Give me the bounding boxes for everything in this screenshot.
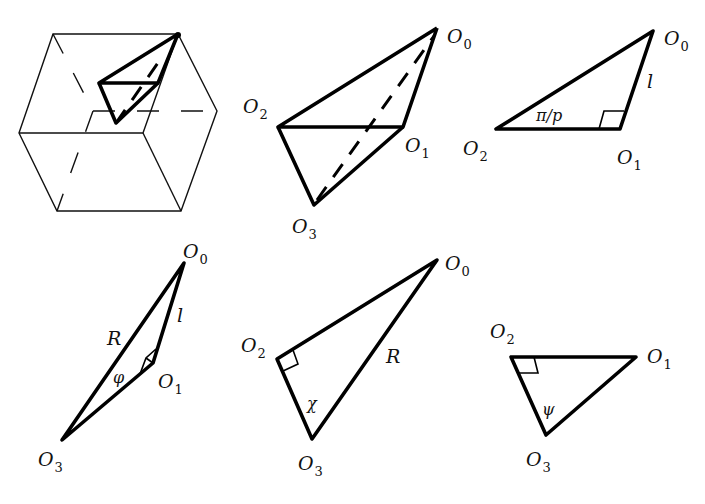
triangle-013-panel: R l φ O0 O1 O3 xyxy=(38,240,208,475)
vertex-label-O3: O3 xyxy=(298,452,323,479)
cube-hidden-edge-3 xyxy=(57,111,93,211)
vertex-label-O0: O0 xyxy=(445,252,470,279)
vertex-label-O1: O1 xyxy=(158,370,183,397)
edge-label-R: R xyxy=(385,345,400,367)
triangle-012 xyxy=(496,31,653,129)
triangle-023-panel: R χ O0 O2 O3 xyxy=(241,252,470,479)
orthoscheme-figure: O0 O2 O1 O3 π/p l O0 O2 O1 R l φ O0 O1 O… xyxy=(0,0,705,504)
cube-orthoscheme-solid xyxy=(99,34,178,83)
edge-label-R: R xyxy=(106,327,121,349)
orthoscheme-edges xyxy=(278,28,437,127)
cube-panel xyxy=(19,32,217,211)
cube-vertex-dot xyxy=(175,32,181,38)
angle-label-chi: χ xyxy=(306,394,318,413)
vertex-label-O1: O1 xyxy=(647,345,672,372)
triangle-023 xyxy=(277,260,437,439)
angle-label-pi-over-p: π/p xyxy=(535,106,562,125)
angle-label-psi: ψ xyxy=(542,400,555,419)
vertex-label-O3: O3 xyxy=(526,448,551,475)
vertex-label-O0: O0 xyxy=(447,25,472,52)
angle-label-phi: φ xyxy=(113,368,125,387)
vertex-label-O0: O0 xyxy=(183,240,208,267)
vertex-label-O3: O3 xyxy=(292,215,317,242)
vertex-label-O2: O2 xyxy=(463,137,488,164)
vertex-label-O1: O1 xyxy=(405,134,430,161)
triangle-013 xyxy=(62,263,184,440)
cube-front-edge-down xyxy=(143,133,181,211)
edge-label-l: l xyxy=(177,304,183,326)
edge-label-l: l xyxy=(647,70,653,92)
orthoscheme-panel: O0 O2 O1 O3 xyxy=(243,25,472,242)
triangle-123 xyxy=(511,357,636,435)
vertex-label-O2: O2 xyxy=(243,95,268,122)
vertex-label-O0: O0 xyxy=(664,27,689,54)
cube-hidden-edge-1 xyxy=(53,34,93,111)
vertex-label-O1: O1 xyxy=(617,146,642,173)
vertex-label-O2: O2 xyxy=(241,334,266,361)
vertex-label-O2: O2 xyxy=(490,320,515,347)
triangle-123-panel: ψ O2 O1 O3 xyxy=(490,320,672,475)
vertex-label-O3: O3 xyxy=(38,448,63,475)
orthoscheme-hidden-edge xyxy=(317,36,434,200)
right-angle-marker-O2 xyxy=(519,357,538,373)
triangle-012-panel: π/p l O0 O2 O1 xyxy=(463,27,689,173)
